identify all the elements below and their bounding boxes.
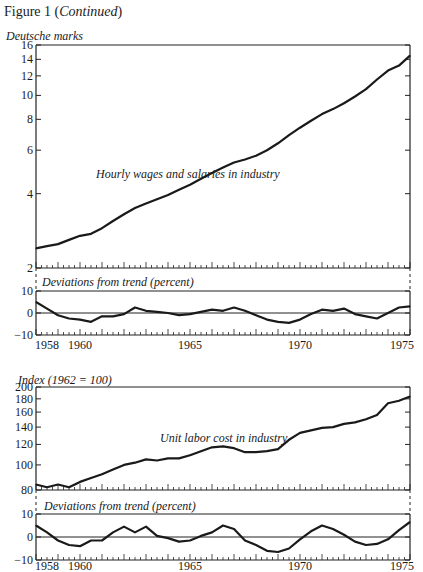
panel1-y-tick-label: 6 bbox=[27, 143, 33, 157]
panel1-data-point bbox=[332, 109, 333, 110]
panel2-data-point bbox=[167, 312, 168, 313]
x-tick-label-1960: 1960 bbox=[68, 559, 92, 572]
panel4-data-point bbox=[134, 532, 135, 533]
panel3-data-point bbox=[211, 447, 212, 448]
x-tick-label-1970: 1970 bbox=[288, 559, 312, 572]
panel3-data-point bbox=[288, 439, 289, 440]
panel1-data-point bbox=[145, 203, 146, 204]
panel4-y-tick-label: 10 bbox=[21, 507, 33, 521]
panel2-data-point bbox=[90, 321, 91, 322]
panel2-y-tick-label: −10 bbox=[14, 328, 33, 342]
panel1-data-point bbox=[156, 199, 157, 200]
panel1-data-point bbox=[200, 178, 201, 179]
panel3-data-point bbox=[156, 460, 157, 461]
panel2-y-tick-label: 10 bbox=[21, 284, 33, 298]
panel3-y-tick-label: 140 bbox=[15, 420, 33, 434]
panel4-data-point bbox=[365, 544, 366, 545]
panel1-data-point bbox=[178, 189, 179, 190]
panel1-data-point bbox=[387, 70, 388, 71]
panel2-data-point bbox=[387, 312, 388, 313]
panel2-data-point bbox=[332, 310, 333, 311]
panel3-data-point bbox=[310, 430, 311, 431]
panel1-data-point bbox=[233, 162, 234, 163]
panel1-data-point bbox=[354, 96, 355, 97]
panel4-data-point bbox=[255, 544, 256, 545]
panel1-data-point bbox=[299, 127, 300, 128]
panel3-y-tick-label: 100 bbox=[15, 458, 33, 472]
panel3-data-point bbox=[387, 403, 388, 404]
panel2-data-point bbox=[200, 311, 201, 312]
panel3-data-point bbox=[57, 484, 58, 485]
panel2-data-point bbox=[79, 319, 80, 320]
panel3-data-point bbox=[145, 459, 146, 460]
panel1-data-point bbox=[244, 159, 245, 160]
panel3-data-point bbox=[255, 452, 256, 453]
panel4-data-point bbox=[211, 532, 212, 533]
panel4-data-point bbox=[288, 548, 289, 549]
panel2-data-point bbox=[321, 309, 322, 310]
panel4-data-point bbox=[145, 526, 146, 527]
panel4-data-point bbox=[79, 546, 80, 547]
panel1-data-point bbox=[101, 228, 102, 229]
x-tick-label-1970: 1970 bbox=[288, 338, 312, 352]
panel2-data-point bbox=[288, 322, 289, 323]
panel4-data-point bbox=[321, 525, 322, 526]
panel2-data-point bbox=[299, 319, 300, 320]
panel3-data-point bbox=[90, 477, 91, 478]
panel2-data-point bbox=[266, 319, 267, 320]
panel3-data-point bbox=[376, 414, 377, 415]
panel4-data-point bbox=[46, 532, 47, 533]
panel3-data-point bbox=[398, 400, 399, 401]
panel1-y-tick-label: 12 bbox=[21, 69, 33, 83]
panel3-series-label: Unit labor cost in industry bbox=[160, 431, 288, 445]
panel1-y-tick-label: 4 bbox=[27, 187, 33, 201]
panel3-data-point bbox=[266, 451, 267, 452]
panel2-data-point bbox=[112, 316, 113, 317]
x-tick-label-1958: 1958 bbox=[35, 338, 59, 352]
panel4-data-point bbox=[277, 551, 278, 552]
panel3-data-point bbox=[35, 484, 36, 485]
panel4-data-point bbox=[156, 535, 157, 536]
panel4-data-point bbox=[200, 535, 201, 536]
panel4-data-point bbox=[178, 541, 179, 542]
panel4-data-point bbox=[310, 531, 311, 532]
panel1-y-tick-label: 2 bbox=[27, 261, 33, 275]
panel3-data-point bbox=[365, 419, 366, 420]
panel2-y-tick-label: 0 bbox=[27, 306, 33, 320]
panel1-data-point bbox=[112, 220, 113, 221]
panel3-data-point bbox=[189, 455, 190, 456]
panel3-data-point bbox=[354, 422, 355, 423]
panel3-y-tick-label: 120 bbox=[15, 437, 33, 451]
panel3-y-tick-label: 80 bbox=[21, 483, 33, 497]
panel3-data-point bbox=[233, 448, 234, 449]
panel2-series-line bbox=[36, 302, 410, 323]
panel1-data-point bbox=[211, 172, 212, 173]
panel4-title: Deviations from trend (percent) bbox=[43, 499, 196, 513]
panel2-data-point bbox=[277, 321, 278, 322]
panel1-y-tick-label: 16 bbox=[21, 38, 33, 52]
panel2-data-point bbox=[398, 307, 399, 308]
panel4-data-point bbox=[222, 525, 223, 526]
panel3-y-tick-label: 160 bbox=[15, 405, 33, 419]
panel1-data-point bbox=[123, 214, 124, 215]
panel1-data-point bbox=[35, 248, 36, 249]
panel1-y-tick-label: 8 bbox=[27, 112, 33, 126]
panel1-data-point bbox=[79, 235, 80, 236]
panel2-data-point bbox=[244, 310, 245, 311]
panel1-data-point bbox=[277, 143, 278, 144]
x-tick-label-1960: 1960 bbox=[68, 338, 92, 352]
panel4-data-point bbox=[101, 540, 102, 541]
panel4-data-point bbox=[266, 550, 267, 551]
panel1-data-point bbox=[255, 155, 256, 156]
figure-chart: Deutsche marks Hourly wages and salaries… bbox=[0, 0, 423, 572]
panel2-data-point bbox=[343, 308, 344, 309]
panel2-data-point bbox=[310, 314, 311, 315]
panel3-data-point bbox=[321, 427, 322, 428]
panel3-data-point bbox=[101, 474, 102, 475]
panel3-data-point bbox=[46, 487, 47, 488]
panel4-data-point bbox=[68, 544, 69, 545]
panel4-data-point bbox=[57, 540, 58, 541]
panel2-data-point bbox=[57, 315, 58, 316]
x-tick-label-1965: 1965 bbox=[178, 338, 202, 352]
panel1-data-point bbox=[222, 167, 223, 168]
